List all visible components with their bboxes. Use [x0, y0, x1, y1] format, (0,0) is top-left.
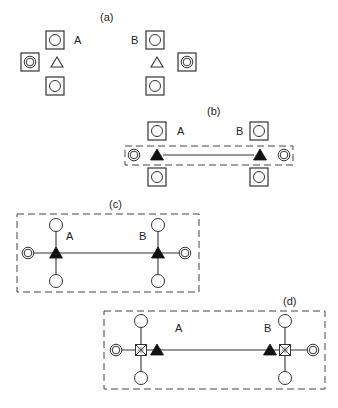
panel-label-c: (c) [109, 198, 122, 210]
node-square-double-circle-icon [178, 53, 196, 71]
node-label-a: A [74, 34, 82, 46]
open-circle-icon [135, 372, 148, 385]
node-square-circle-icon [146, 31, 164, 49]
node-square-double-circle-icon [21, 53, 39, 71]
node-square-circle-icon [250, 122, 268, 140]
node-square-circle-icon [250, 168, 268, 186]
node-label-a: A [177, 125, 185, 137]
node-square-circle-icon [46, 77, 64, 95]
node-label-a: A [66, 230, 74, 242]
node-square-circle-icon [148, 122, 166, 140]
crossed-box-icon [136, 345, 147, 356]
node-label-b: B [131, 34, 138, 46]
double-circle-icon [22, 247, 34, 259]
panel-d: (d) A B [104, 295, 325, 389]
open-circle-icon [135, 315, 148, 328]
node-square-circle-icon [146, 77, 164, 95]
double-circle-icon [110, 344, 122, 356]
diagram-canvas: (a) A B (b) A B (c) A [0, 0, 338, 408]
node-label-a: A [175, 322, 183, 334]
node-square-circle-icon [148, 168, 166, 186]
open-circle-icon [152, 275, 165, 288]
filled-triangle-icon [151, 149, 164, 160]
panel-a: (a) A B [21, 11, 196, 95]
panel-label-b: (b) [207, 105, 220, 117]
panel-c: (c) A B [17, 198, 199, 292]
node-label-b: B [236, 125, 243, 137]
open-circle-icon [152, 219, 165, 232]
node-label-b: B [139, 230, 146, 242]
open-triangle-icon [51, 57, 63, 67]
open-circle-icon [279, 372, 292, 385]
open-circle-icon [50, 219, 63, 232]
double-circle-icon [278, 149, 290, 161]
panel-b: (b) A B [125, 105, 293, 186]
double-circle-icon [128, 149, 140, 161]
panel-label-d: (d) [283, 295, 296, 307]
open-triangle-icon [151, 57, 163, 67]
crossed-box-icon [280, 345, 291, 356]
double-circle-icon [179, 247, 191, 259]
panel-label-a: (a) [100, 11, 113, 23]
open-circle-icon [279, 315, 292, 328]
open-circle-icon [50, 275, 63, 288]
node-square-circle-icon [46, 31, 64, 49]
node-label-b: B [264, 322, 271, 334]
filled-triangle-icon [254, 149, 267, 160]
double-circle-icon [307, 344, 319, 356]
